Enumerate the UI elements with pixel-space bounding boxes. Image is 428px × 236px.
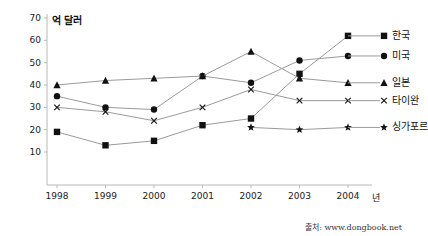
legend-marker-싱가포르 [380,123,388,130]
series-line-일본 [57,52,348,86]
series-line-타이완 [57,89,348,120]
series-line-한국 [57,36,348,145]
datapoint-미국-1998 [54,93,60,99]
legend-marker-한국 [381,33,387,39]
series-미국 [54,53,351,113]
datapoint-한국-2002 [248,115,254,121]
legend-markers [348,33,388,131]
datapoint-싱가포르-2003 [296,126,304,133]
datapoint-싱가포르-2002 [247,123,255,130]
legend-label-한국[interactable]: 한국 [392,30,410,41]
datapoint-미국-2002 [248,80,254,86]
datapoint-일본-2002 [247,48,254,55]
source-note: 출처: www.dongbook.net [305,221,402,232]
legend-marker-미국 [381,53,387,59]
legend-marker-일본 [380,79,387,86]
legend-label-미국[interactable]: 미국 [392,50,410,61]
series-싱가포르 [247,123,352,133]
datapoint-한국-2000 [151,138,157,144]
series-타이완 [54,87,351,124]
datapoint-한국-1999 [102,142,108,148]
datapoint-미국-2003 [296,57,302,63]
legend-label-타이완[interactable]: 타이완 [392,95,419,106]
legend-label-싱가포르[interactable]: 싱가포르 [392,121,428,132]
series-line-미국 [57,56,348,110]
datapoint-한국-1998 [54,129,60,135]
datapoint-미국-2000 [151,106,157,112]
datapoint-한국-2001 [199,122,205,128]
legend-label-일본[interactable]: 일본 [392,77,410,88]
series-한국 [54,33,351,149]
